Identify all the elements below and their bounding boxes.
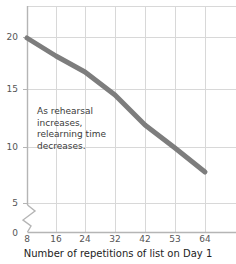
x-tick-label-32: 32: [109, 234, 120, 245]
x-tick-label-16: 16: [50, 234, 61, 245]
x-axis-title: Number of repetitions of list on Day 1: [0, 248, 236, 260]
y-tick-label-10: 10: [7, 142, 18, 152]
y-tick-label-15: 15: [7, 84, 18, 94]
x-tick-label-64: 64: [199, 234, 210, 245]
y-axis: 20 15 10 5 0: [0, 0, 22, 264]
x-tick-label-53: 53: [169, 234, 180, 245]
annotation-line-2: increases,: [37, 118, 123, 130]
chart-annotation: As rehearsal increases, relearning time …: [37, 106, 123, 152]
y-tick-label-20: 20: [7, 32, 18, 42]
annotation-line-4: decreases.: [37, 141, 123, 153]
annotation-line-1: As rehearsal: [37, 106, 123, 118]
chart-container: 20 15 10 5 0 8 16 24 32 42 53 64 Number …: [0, 0, 236, 264]
x-tick-label-24: 24: [79, 234, 90, 245]
x-tick-label-8: 8: [24, 234, 30, 245]
annotation-line-3: relearning time: [37, 129, 123, 141]
x-axis: 8 16 24 32 42 53 64: [0, 234, 236, 248]
x-tick-label-42: 42: [139, 234, 150, 245]
y-tick-label-5: 5: [12, 198, 18, 208]
